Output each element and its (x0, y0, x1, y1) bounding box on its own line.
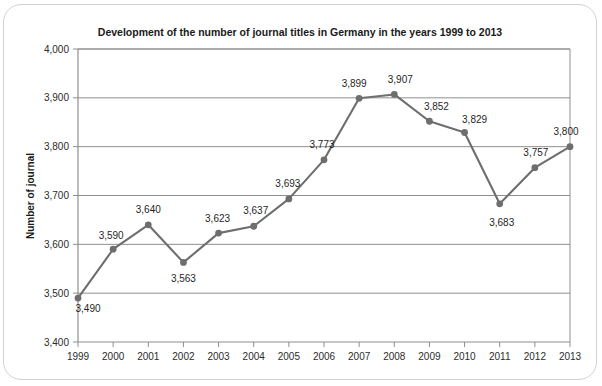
data-point-label: 3,773 (309, 139, 334, 150)
x-tick-label: 2005 (278, 351, 301, 362)
data-point-marker (110, 246, 117, 253)
y-tick-label: 3,800 (44, 141, 69, 152)
y-tick-label: 4,000 (44, 44, 69, 55)
x-tick-label: 2004 (243, 351, 266, 362)
x-tick-label: 2002 (172, 351, 195, 362)
data-point-label: 3,590 (99, 230, 124, 241)
x-tick-label: 2013 (559, 351, 582, 362)
data-point-marker (567, 143, 574, 150)
data-point-marker (75, 295, 82, 302)
data-point-marker (356, 95, 363, 102)
data-point-label: 3,637 (243, 205, 268, 216)
x-tick-label: 1999 (67, 351, 90, 362)
data-point-label: 3,490 (75, 303, 100, 314)
data-point-label: 3,623 (205, 213, 230, 224)
data-point-marker (321, 156, 328, 163)
x-tick-label: 2012 (524, 351, 547, 362)
y-axis-title: Number of journal (25, 153, 36, 239)
data-point-label: 3,829 (462, 114, 487, 125)
data-point-marker (496, 200, 503, 207)
data-point-label: 3,640 (136, 204, 161, 215)
data-point-marker (461, 129, 468, 136)
x-tick-label: 2006 (313, 351, 336, 362)
data-point-marker (285, 196, 292, 203)
y-tick-label: 3,500 (44, 288, 69, 299)
series-line-journal-titles (78, 94, 570, 298)
line-chart: Development of the number of journal tit… (0, 0, 602, 386)
data-point-marker (250, 223, 257, 230)
data-point-label: 3,683 (489, 217, 514, 228)
data-point-labels: 3,4903,5903,6403,5633,6233,6373,6933,773… (75, 74, 578, 314)
data-point-label: 3,563 (171, 273, 196, 284)
screenshot-root: Development of the number of journal tit… (0, 0, 602, 386)
y-tick-label: 3,900 (44, 92, 69, 103)
data-point-marker (531, 164, 538, 171)
y-tick-label: 3,600 (44, 239, 69, 250)
data-point-marker (215, 230, 222, 237)
data-point-marker (180, 259, 187, 266)
data-point-label: 3,800 (553, 126, 578, 137)
series-markers (75, 91, 574, 301)
x-tick-label: 2011 (489, 351, 511, 362)
x-tick-label: 2001 (137, 351, 160, 362)
data-point-label: 3,757 (523, 147, 548, 158)
data-point-label: 3,693 (275, 178, 300, 189)
x-tick-label: 2009 (418, 351, 441, 362)
data-point-label: 3,907 (388, 74, 413, 85)
data-point-marker (145, 221, 152, 228)
data-point-marker (426, 118, 433, 125)
chart-figure: Development of the number of journal tit… (0, 0, 602, 386)
x-tick-label: 2000 (102, 351, 125, 362)
x-tick-label: 2003 (207, 351, 230, 362)
x-tick-label: 2008 (383, 351, 406, 362)
x-axis-tick-labels: 1999200020012002200320042005200620072008… (67, 351, 582, 362)
x-tick-label: 2007 (348, 351, 371, 362)
chart-title: Development of the number of journal tit… (98, 26, 503, 38)
data-point-label: 3,899 (342, 78, 367, 89)
x-axis-ticks (78, 342, 570, 347)
x-tick-label: 2010 (453, 351, 476, 362)
y-axis-tick-labels: 3,4003,5003,6003,7003,8003,9004,000 (44, 44, 69, 348)
data-point-label: 3,852 (424, 101, 449, 112)
y-tick-label: 3,700 (44, 190, 69, 201)
data-point-marker (391, 91, 398, 98)
y-tick-label: 3,400 (44, 337, 69, 348)
